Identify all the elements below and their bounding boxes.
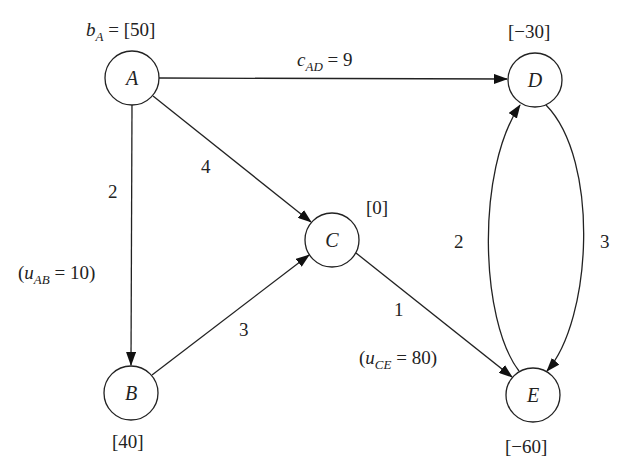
node-d-label: D	[508, 70, 562, 90]
capacity-ce-var: u	[365, 347, 375, 368]
node-a-label: A	[105, 68, 159, 88]
capacity-ce-value: = 80)	[391, 347, 437, 368]
capacity-ab-sub: AB	[34, 272, 50, 287]
supply-a-var: b	[86, 19, 96, 40]
edge-a-c	[153, 96, 311, 222]
capacity-ce-label: (uCE = 80)	[359, 348, 437, 371]
cost-ac-label: 4	[201, 157, 211, 176]
cost-ad-sub: AD	[305, 59, 322, 74]
capacity-ab-var: u	[24, 262, 34, 283]
edge-b-c	[152, 255, 309, 375]
edge-a-d	[159, 78, 507, 79]
node-c-label: C	[305, 230, 359, 250]
node-e-label: E	[506, 385, 560, 405]
cost-de-label: 3	[600, 232, 610, 251]
capacity-ce-sub: CE	[375, 357, 392, 372]
edge-e-d	[488, 105, 520, 371]
edge-d-e	[546, 105, 584, 371]
cost-ad-value: = 9	[323, 49, 353, 70]
supply-e-label: [−60]	[505, 437, 547, 456]
supply-d-label: [−30]	[508, 22, 550, 41]
supply-a-value: = [50]	[103, 19, 155, 40]
supply-c-label: [0]	[366, 198, 388, 217]
cost-ce-label: 1	[394, 300, 404, 319]
supply-b-label: [40]	[112, 432, 144, 451]
node-b-label: B	[104, 383, 158, 403]
edge-a-b	[131, 105, 132, 365]
supply-a-label: bA = [50]	[86, 20, 155, 43]
capacity-ab-value: = 10)	[50, 262, 96, 283]
cost-ad-label: cAD = 9	[297, 50, 353, 73]
cost-ed-label: 2	[454, 232, 464, 251]
cost-bc-label: 3	[239, 320, 249, 339]
cost-ab-label: 2	[108, 182, 118, 201]
capacity-ab-label: (uAB = 10)	[18, 263, 95, 286]
